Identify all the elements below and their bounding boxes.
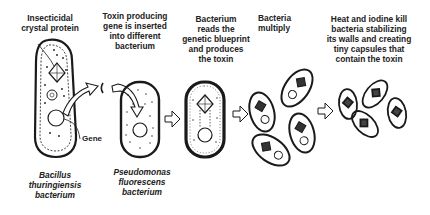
organism-label-bacillus: Bacillus thuringiensis bacterium <box>20 170 90 200</box>
arrow-right-icon <box>165 111 180 127</box>
toxin-producing-cell-icon <box>186 82 224 157</box>
caption-heat-iodine: Heat and iodine kill bacteria stabilizin… <box>320 14 418 64</box>
caption-gene-inserted: Toxin producing gene is inserted into di… <box>98 11 172 51</box>
caption-bacteria-multiply: Bacteria multiply <box>258 13 298 33</box>
capsule-icon <box>338 76 409 142</box>
organism-label-pseudomonas: Pseudomonas fluorescens bacterium <box>104 167 180 197</box>
arrow-right-icon <box>233 106 248 122</box>
gene-label: Gene <box>82 134 102 143</box>
multiplying-bacteria-icon <box>245 64 319 172</box>
arrow-right-icon <box>318 103 333 119</box>
biopesticide-process-diagram: Insecticidal crystal protein Toxin produ… <box>0 0 430 215</box>
caption-reads-blueprint: Bacterium reads the genetic blueprint an… <box>178 14 254 64</box>
caption-crystal-protein: Insecticidal crystal protein <box>10 13 90 33</box>
